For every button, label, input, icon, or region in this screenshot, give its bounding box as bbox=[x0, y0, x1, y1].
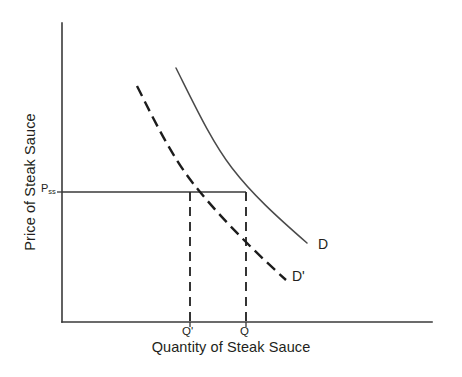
plot-canvas bbox=[0, 0, 462, 377]
x-axis-title: Quantity of Steak Sauce bbox=[0, 340, 462, 355]
x-axis-title-text: Quantity of Steak Sauce bbox=[152, 339, 311, 355]
price-tick-label-subscript: ss bbox=[48, 187, 56, 196]
x-tick-label-qprime: Q' bbox=[182, 326, 193, 338]
demand-curve-d-prime bbox=[137, 86, 286, 280]
y-axis-title: Price of Steak Sauce bbox=[20, 98, 40, 266]
demand-shift-figure: Price of Steak Sauce Quantity of Steak S… bbox=[0, 0, 462, 377]
demand-curve-d-prime-label: D' bbox=[292, 269, 305, 283]
price-tick-label: Pss bbox=[41, 183, 56, 194]
y-axis-title-text: Price of Steak Sauce bbox=[22, 113, 38, 250]
demand-curve-d bbox=[176, 68, 307, 243]
x-tick-label-q: Q bbox=[240, 326, 249, 338]
demand-curve-d-label: D bbox=[318, 237, 328, 251]
